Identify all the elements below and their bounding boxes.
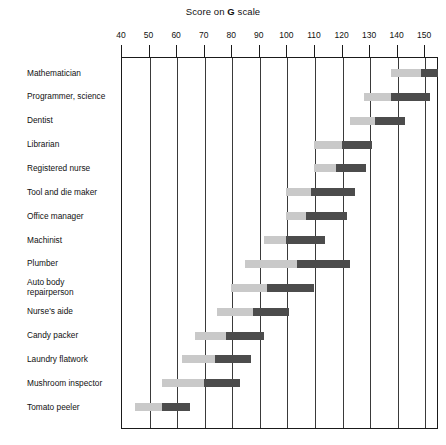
x-axis-tick-marks [121, 45, 438, 57]
category-label: Office manager [0, 212, 112, 222]
x-tick-mark [342, 45, 343, 57]
category-label: Laundry flatwork [0, 355, 112, 365]
category-label: Programmer, science [0, 92, 112, 102]
x-tick-label: 80 [227, 30, 236, 40]
plot-area [121, 57, 438, 429]
x-tick-mark [369, 45, 370, 57]
category-label: Nurse's aide [0, 307, 112, 317]
x-tick-label: 130 [362, 30, 376, 40]
x-tick-label: 50 [144, 30, 153, 40]
category-label: Machinist [0, 236, 112, 246]
category-label: Mushroom inspector [0, 379, 112, 389]
category-label: Dentist [0, 116, 112, 126]
gridline [260, 58, 261, 428]
category-label: Mathematician [0, 69, 112, 79]
category-axis-labels: MathematicianProgrammer, scienceDentistL… [0, 57, 118, 429]
gridline [398, 58, 399, 428]
x-tick-mark [314, 45, 315, 57]
x-tick-label: 110 [307, 30, 321, 40]
gridline [315, 58, 316, 428]
gridline [343, 58, 344, 428]
category-label: Plumber [0, 259, 112, 269]
x-tick-mark [259, 45, 260, 57]
x-tick-mark [231, 45, 232, 57]
category-label: Auto body repairperson [0, 278, 112, 297]
x-tick-mark [149, 45, 150, 57]
category-label: Registered nurse [0, 164, 112, 174]
category-label: Candy packer [0, 331, 112, 341]
chart-title: Score on G scale [0, 6, 446, 17]
x-tick-label: 90 [254, 30, 263, 40]
x-tick-label: 70 [199, 30, 208, 40]
x-tick-label: 140 [390, 30, 404, 40]
x-axis-tick-labels: 405060708090100110120130140150 [0, 30, 446, 43]
range-bar-chart: Score on G scale 40506070809010011012013… [0, 0, 446, 445]
x-tick-mark [204, 45, 205, 57]
category-label: Tool and die maker [0, 188, 112, 198]
x-tick-label: 40 [116, 30, 125, 40]
x-tick-mark [286, 45, 287, 57]
gridline [425, 58, 426, 428]
category-label: Librarian [0, 140, 112, 150]
category-label: Tomato peeler [0, 403, 112, 413]
x-tick-label: 150 [417, 30, 431, 40]
x-tick-mark [176, 45, 177, 57]
gridline [150, 58, 151, 428]
chart-title-suffix: scale [235, 6, 260, 17]
x-tick-label: 120 [334, 30, 348, 40]
x-tick-label: 100 [279, 30, 293, 40]
gridline [232, 58, 233, 428]
gridline [287, 58, 288, 428]
gridline [177, 58, 178, 428]
x-tick-label: 60 [171, 30, 180, 40]
chart-title-emphasis: G [227, 6, 235, 17]
x-tick-mark [397, 45, 398, 57]
x-tick-mark [424, 45, 425, 57]
chart-title-prefix: Score on [186, 6, 228, 17]
gridline [205, 58, 206, 428]
gridline [370, 58, 371, 428]
x-tick-mark [121, 45, 122, 57]
